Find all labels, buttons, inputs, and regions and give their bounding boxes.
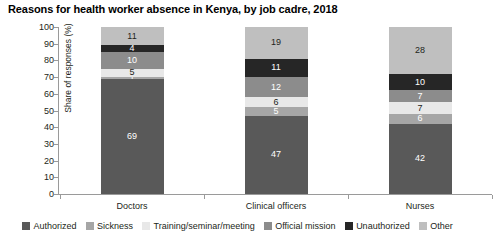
y-axis-tick: [54, 60, 58, 61]
y-axis-tick-label: 50: [26, 106, 54, 116]
y-axis-tick-label: 0: [26, 189, 54, 199]
y-axis-tick: [54, 161, 58, 162]
y-axis-tick-label: 30: [26, 139, 54, 149]
y-axis-tick-label: 90: [26, 39, 54, 49]
chart-legend: AuthorizedSicknessTraining/seminar/meeti…: [22, 221, 462, 231]
y-axis-line: [58, 27, 59, 195]
y-axis-tick: [54, 77, 58, 78]
y-axis-tick: [54, 144, 58, 145]
chart-root: Reasons for health worker absence in Ken…: [0, 0, 500, 237]
bar-segment[interactable]: 28: [389, 27, 452, 74]
bar-segment[interactable]: 42: [389, 124, 452, 194]
bar-segment[interactable]: 1: [101, 77, 164, 79]
bar-segment[interactable]: 7: [389, 90, 452, 102]
bar-segment[interactable]: 69: [101, 79, 164, 194]
y-axis-tick-label: 20: [26, 156, 54, 166]
y-axis-tick: [54, 177, 58, 178]
bar-segment[interactable]: 12: [245, 77, 308, 97]
y-axis-tick: [54, 194, 58, 195]
stacked-bar[interactable]: 691510411: [101, 27, 164, 194]
legend-item[interactable]: Unauthorized: [345, 221, 410, 231]
legend-swatch-icon: [142, 222, 150, 230]
chart-title: Reasons for health worker absence in Ken…: [8, 3, 337, 15]
bar-segment-value: 28: [415, 46, 425, 55]
plot-area: Share of responses (%) 01020304050607080…: [60, 27, 492, 194]
y-axis-tick-labels: 0102030405060708090100: [26, 27, 54, 194]
bar-segment-value: 69: [127, 132, 137, 141]
bar-segment[interactable]: 6: [245, 97, 308, 107]
x-axis-tick-label: Doctors: [116, 201, 147, 211]
legend-label: Official mission: [275, 221, 335, 231]
bar-segment-value: 7: [417, 92, 422, 101]
y-axis-tick: [54, 127, 58, 128]
bar-segment-value: 5: [273, 107, 278, 115]
legend-label: Training/seminar/meeting: [154, 221, 255, 231]
bar-group: 426771028: [389, 27, 452, 194]
bar-segment[interactable]: 4: [101, 45, 164, 52]
bar-segment[interactable]: 47: [245, 116, 308, 194]
x-axis-tick: [60, 195, 61, 199]
bar-segment-value: 11: [127, 32, 136, 41]
x-axis-tick: [492, 195, 493, 199]
bar-segment-value: 7: [417, 104, 422, 113]
x-axis-line: [58, 194, 492, 195]
bar-segment-value: 10: [415, 78, 425, 87]
legend-item[interactable]: Official mission: [264, 221, 336, 231]
bar-segment[interactable]: 11: [245, 59, 308, 77]
bar-group: 691510411: [101, 27, 164, 194]
legend-item[interactable]: Sickness: [86, 221, 134, 231]
y-axis-tick: [54, 44, 58, 45]
bar-segment-value: 1: [129, 77, 134, 79]
y-axis-tick-label: 60: [26, 89, 54, 99]
bar-segment-value: 5: [129, 69, 134, 77]
bar-segment-value: 11: [271, 63, 280, 72]
bar-group: 4756121119: [245, 27, 308, 194]
legend-label: Unauthorized: [356, 221, 410, 231]
bar-segment-value: 12: [271, 83, 281, 92]
legend-swatch-icon: [264, 222, 272, 230]
bar-segment-value: 6: [417, 114, 422, 123]
y-axis-tick-label: 10: [26, 172, 54, 182]
legend-label: Other: [430, 221, 453, 231]
legend-swatch-icon: [345, 222, 353, 230]
x-axis-tick-label: Nurses: [406, 201, 435, 211]
legend-swatch-icon: [86, 222, 94, 230]
y-axis-tick: [54, 111, 58, 112]
stacked-bar[interactable]: 4756121119: [245, 27, 308, 194]
y-axis-tick: [54, 27, 58, 28]
legend-label: Authorized: [34, 221, 77, 231]
y-axis-tick-label: 70: [26, 72, 54, 82]
bar-segment[interactable]: 10: [101, 52, 164, 69]
y-axis-tick: [54, 94, 58, 95]
bar-segment[interactable]: 5: [101, 69, 164, 77]
bar-segment-value: 10: [127, 56, 137, 65]
stacked-bar[interactable]: 426771028: [389, 27, 452, 194]
bar-segment-value: 6: [273, 98, 278, 107]
legend-item[interactable]: Training/seminar/meeting: [142, 221, 255, 231]
bar-segment[interactable]: 19: [245, 27, 308, 59]
legend-swatch-icon: [22, 222, 30, 230]
legend-swatch-icon: [419, 222, 427, 230]
bar-segment[interactable]: 11: [101, 27, 164, 45]
bar-segment[interactable]: 5: [245, 107, 308, 115]
bar-segment-value: 4: [129, 45, 134, 52]
y-axis-tick-label: 100: [26, 22, 54, 32]
bar-segment[interactable]: 6: [389, 114, 452, 124]
y-axis-tick-label: 80: [26, 55, 54, 65]
bar-segment-value: 47: [271, 150, 281, 159]
x-axis-tick-label: Clinical officers: [246, 201, 306, 211]
x-axis-tick: [204, 195, 205, 199]
bar-series-container: 6915104114756121119426771028: [60, 27, 492, 194]
bar-segment-value: 19: [271, 38, 281, 47]
bar-segment-value: 42: [415, 154, 425, 163]
x-axis-tick: [348, 195, 349, 199]
y-axis-tick-label: 40: [26, 122, 54, 132]
bar-segment[interactable]: 10: [389, 74, 452, 91]
legend-item[interactable]: Authorized: [22, 221, 77, 231]
bar-segment[interactable]: 7: [389, 102, 452, 114]
legend-label: Sickness: [97, 221, 133, 231]
legend-item[interactable]: Other: [419, 221, 453, 231]
